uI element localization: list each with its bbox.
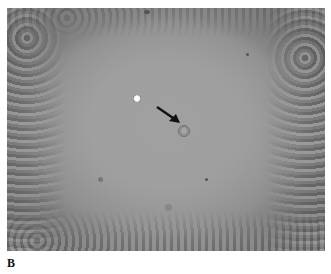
debris-dot [246, 53, 249, 56]
cell-cluster-top [7, 8, 325, 38]
arrow-icon [156, 105, 182, 125]
panel-label: B [7, 256, 15, 271]
target-cell [178, 125, 190, 137]
debris-dot [165, 204, 172, 211]
debris-dot [98, 177, 103, 182]
cell-cluster-bottom [7, 211, 325, 251]
debris-dot [205, 178, 208, 181]
bright-refractile-cell [133, 95, 141, 102]
debris-dot [144, 10, 150, 14]
micrograph-image [7, 8, 325, 251]
